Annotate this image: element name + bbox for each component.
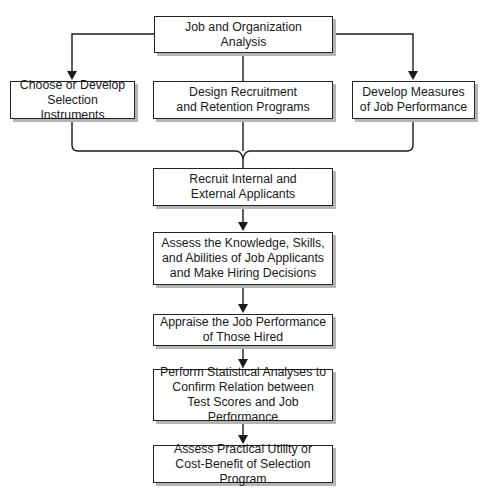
node-performance-measures: Develop Measuresof Job Performance: [352, 81, 475, 119]
node-recruitment-programs: Design Recruitmentand Retention Programs: [153, 81, 333, 119]
arrowhead-icon: [238, 222, 248, 231]
node-text: Assess Practical Utility or: [158, 442, 328, 457]
node-practical-utility: Assess Practical Utility orCost-Benefit …: [153, 445, 333, 483]
node-text: Cost-Benefit of Selection Program: [158, 457, 328, 487]
node-text: Recruit Internal and: [189, 172, 296, 187]
connector-to-measures: [333, 34, 413, 72]
node-text: and Abilities of Job Applicants: [161, 251, 324, 266]
arrowhead-icon: [408, 71, 418, 80]
node-text: Assess the Knowledge, Skills,: [161, 236, 324, 251]
node-selection-instruments: Choose or DevelopSelection Instruments: [10, 81, 135, 119]
node-text: Choose or Develop: [15, 78, 130, 93]
node-text: Analysis: [185, 35, 302, 50]
node-job-analysis: Job and OrganizationAnalysis: [154, 16, 333, 53]
node-text: and Make Hiring Decisions: [161, 266, 324, 281]
node-text: Selection Instruments: [15, 93, 130, 123]
node-text: of Job Performance: [360, 100, 467, 115]
connector-to-selection: [72, 34, 154, 72]
node-recruit-applicants: Recruit Internal andExternal Applicants: [153, 168, 333, 206]
node-text: Confirm Relation between: [158, 380, 328, 395]
node-statistical-analyses: Perform Statistical Analyses toConfirm R…: [153, 369, 333, 421]
node-text: Job and Organization: [185, 20, 302, 35]
node-text: Design Recruitment: [176, 85, 309, 100]
node-text: Test Scores and Job Performance: [158, 395, 328, 425]
node-text: Perform Statistical Analyses to: [158, 365, 328, 380]
node-text: Develop Measures: [360, 85, 467, 100]
node-text: and Retention Programs: [176, 100, 309, 115]
node-text: Appraise the Job Performance: [160, 315, 326, 330]
node-text: of Those Hired: [160, 330, 326, 345]
node-appraise-performance: Appraise the Job Performanceof Those Hir…: [153, 314, 333, 346]
node-text: External Applicants: [189, 187, 296, 202]
node-assess-ksa: Assess the Knowledge, Skills,and Abiliti…: [153, 232, 333, 285]
arrowhead-icon: [238, 304, 248, 313]
